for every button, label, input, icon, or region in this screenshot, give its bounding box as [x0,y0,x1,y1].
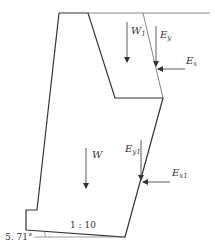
w1-label: W1 [131,25,146,38]
ex1-label: Ex1 [171,167,188,180]
ex-label: Ex [185,55,197,68]
retaining-wall-diagram: W1 Ey Ex W Ey1 Ex1 1 : 10 5. 71° [0,0,215,252]
ey1-label: Ey1 [124,143,141,156]
base-slope-label: 1 : 10 [70,220,96,230]
wall-outline [26,13,163,237]
base-angle-label: 5. 71° [5,232,32,242]
ey-label: Ey [159,29,172,42]
soil-wedge-line [143,13,163,98]
w-label: W [92,149,103,160]
